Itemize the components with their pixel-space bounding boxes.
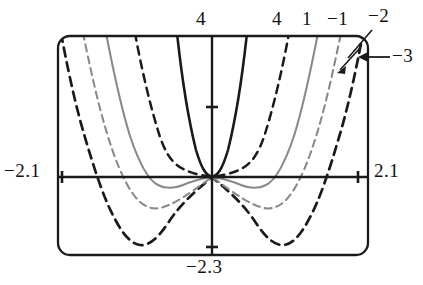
graph-figure [0,0,423,285]
curve-label-4: 4 [272,8,282,30]
curve-label-minus-2: −2 [368,5,389,27]
curve-label-minus-1: −1 [327,8,348,30]
x-axis-max-label: 2.1 [374,160,399,182]
curve-label-1: 1 [302,8,312,30]
callout-arrow-minus-3 [358,52,390,62]
x-axis-min-label: −2.1 [4,160,40,182]
curve-label-minus-3: −3 [392,45,413,67]
y-axis-min-label: −2.3 [186,256,222,278]
y-axis-max-label: 4 [196,8,206,30]
